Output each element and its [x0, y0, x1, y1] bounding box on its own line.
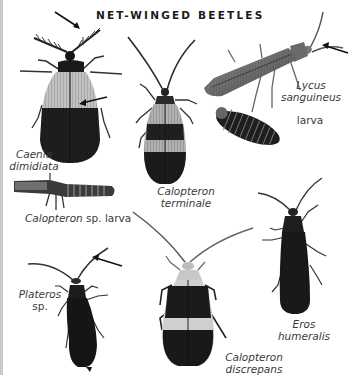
label-lycus-sanguineus: Lycus sanguineus [278, 79, 344, 103]
label-calopteron-larva-genus: Calopteron [25, 212, 83, 224]
field-guide-page: NET-WINGED BEETLES [0, 0, 349, 375]
eros-humeralis-illustration [258, 178, 326, 314]
label-eros-line1: Eros [276, 318, 332, 330]
calopteron-discrepans-illustration [133, 212, 253, 366]
label-lycus-line2: sanguineus [278, 91, 344, 103]
label-calopteron-terminale-line1: Calopteron [146, 185, 226, 197]
label-plateros-sp: Plateros sp. [18, 288, 62, 312]
label-calopteron-discrepans-line2: discrepans [217, 363, 291, 375]
label-lycus-larva-text: larva [290, 114, 330, 126]
label-caenia-line2: dimidiata [6, 160, 62, 172]
label-lycus-larva: larva [290, 114, 330, 126]
label-eros-humeralis: Eros humeralis [276, 318, 332, 342]
label-calopteron-discrepans-line1: Calopteron [217, 351, 291, 363]
label-calopteron-terminale: Calopteron terminale [146, 185, 226, 209]
caenia-dimidiata-illustration [20, 28, 122, 163]
calopteron-terminale-illustration [128, 37, 197, 184]
label-caenia-dimidiata: Caenia dimidiata [6, 148, 62, 172]
lycus-larva-illustration [210, 103, 284, 151]
label-calopteron-larva: Calopteron sp. larva [25, 212, 131, 224]
label-plateros-line2: sp. [18, 300, 62, 312]
label-calopteron-larva-rest: sp. larva [83, 212, 131, 224]
label-caenia-line1: Caenia [6, 148, 62, 160]
title-arrow-icon [55, 12, 80, 29]
label-eros-line2: humeralis [276, 330, 332, 342]
calopteron-larva-illustration [14, 173, 115, 210]
label-plateros-line1: Plateros [18, 288, 62, 300]
label-calopteron-discrepans: Calopteron discrepans [217, 351, 291, 375]
label-calopteron-terminale-line2: terminale [146, 197, 226, 209]
label-lycus-line1: Lycus [278, 79, 344, 91]
